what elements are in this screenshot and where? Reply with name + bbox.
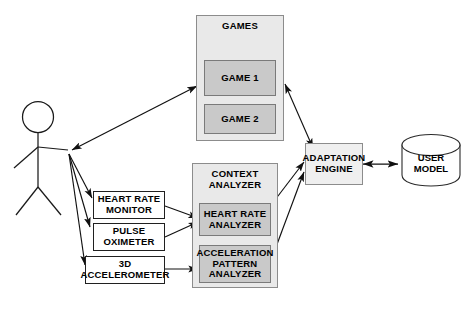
user-model-label: USER MODEL (414, 153, 448, 174)
edge-player-3d-accelerometer (69, 154, 85, 265)
game-1-label: GAME 1 (221, 73, 259, 84)
adaptation-engine-box[interactable]: ADAPTATION ENGINE (305, 143, 363, 185)
pulse-oximeter-label: PULSE OXIMETER (103, 226, 154, 247)
context-analyzer-label: CONTEXT ANALYZER (209, 169, 261, 190)
edge-player-games (72, 86, 197, 150)
edge-player-pulse-oximeter (69, 154, 90, 227)
diagram-canvas: GAMES GAME 1 GAME 2 CONTEXT ANALYZER HEA… (0, 0, 472, 312)
heart-rate-analyzer-box[interactable]: HEART RATE ANALYZER (199, 203, 271, 236)
3d-accelerometer-box[interactable]: 3D ACCELEROMETER (85, 256, 165, 284)
adaptation-engine-label: ADAPTATION ENGINE (303, 153, 366, 174)
edge-player-heart-rate-monitor (69, 154, 92, 198)
heart-rate-monitor-label: HEART RATE MONITOR (98, 194, 161, 215)
edge-games-adaptation-engine (285, 84, 313, 148)
game-2-box[interactable]: GAME 2 (204, 104, 276, 134)
heart-rate-monitor-box[interactable]: HEART RATE MONITOR (93, 191, 165, 219)
acceleration-pattern-analyzer-label: ACCELERATION PATTERN ANALYZER (196, 248, 273, 280)
user-model-label-wrap[interactable]: USER MODEL (402, 147, 460, 181)
game-1-box[interactable]: GAME 1 (204, 60, 276, 96)
acceleration-pattern-analyzer-box[interactable]: ACCELERATION PATTERN ANALYZER (199, 245, 271, 283)
player-stick-figure (14, 102, 68, 216)
games-container-label: GAMES (222, 21, 258, 32)
game-2-label: GAME 2 (221, 114, 259, 125)
3d-accelerometer-label: 3D ACCELEROMETER (80, 259, 169, 280)
heart-rate-analyzer-label: HEART RATE ANALYZER (204, 209, 267, 230)
pulse-oximeter-box[interactable]: PULSE OXIMETER (93, 223, 165, 251)
